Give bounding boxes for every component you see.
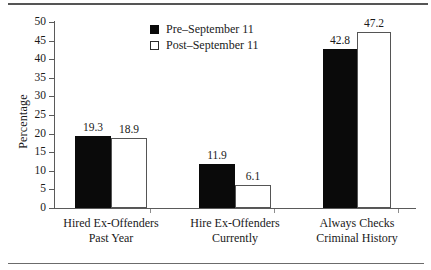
x-axis-category-label-line: Always Checks <box>282 216 431 231</box>
legend-swatch-filled-square-icon <box>150 25 159 34</box>
bar <box>111 138 147 208</box>
legend-label-post: Post–September 11 <box>166 39 259 52</box>
legend-label-pre: Pre–September 11 <box>166 23 254 36</box>
y-axis-tick-label: 45 <box>4 35 46 47</box>
y-axis-tick-label: 25 <box>4 109 46 121</box>
y-axis-tick-mark <box>49 171 54 172</box>
y-axis-tick-label: 40 <box>4 53 46 65</box>
bar <box>235 185 271 208</box>
y-axis-tick-mark <box>49 96 54 97</box>
y-axis-tick-label: 50 <box>4 16 46 28</box>
x-axis-tick-mark <box>274 209 275 213</box>
y-axis-tick-mark <box>49 22 54 23</box>
y-axis-tick-mark <box>49 115 54 116</box>
legend-swatch-open-square-icon <box>150 41 159 50</box>
y-axis-tick-mark <box>49 41 54 42</box>
x-axis-tick-mark <box>150 209 151 213</box>
chart-legend: Pre–September 11 Post–September 11 <box>150 22 259 54</box>
y-axis-tick-label: 20 <box>4 128 46 140</box>
bar <box>323 49 357 208</box>
legend-item-post: Post–September 11 <box>150 38 259 52</box>
bar-value-label: 18.9 <box>103 123 155 135</box>
y-axis-line <box>54 21 55 209</box>
figure-container: Percentage 50454035302520151050 19.318.9… <box>0 0 431 270</box>
bar-value-label: 11.9 <box>191 149 243 161</box>
y-axis-tick-mark <box>49 152 54 153</box>
y-axis-tick-label: 5 <box>4 183 46 195</box>
y-axis-tick-label: 15 <box>4 146 46 158</box>
y-axis-tick-label: 10 <box>4 165 46 177</box>
bar-chart-plot-area: Percentage 50454035302520151050 19.318.9… <box>0 0 431 270</box>
legend-item-pre: Pre–September 11 <box>150 22 259 36</box>
y-axis-tick-mark <box>49 134 54 135</box>
x-axis-category-label-line: Criminal History <box>282 231 431 246</box>
x-axis-tick-mark <box>398 209 399 213</box>
x-axis-line <box>54 208 416 209</box>
y-axis-tick-mark <box>49 189 54 190</box>
bar-value-label: 6.1 <box>227 170 279 182</box>
bar <box>357 32 391 208</box>
y-axis-tick-label: 30 <box>4 90 46 102</box>
y-axis-tick-label: 0 <box>4 202 46 214</box>
bar-value-label: 47.2 <box>349 17 399 29</box>
y-axis-tick-mark <box>49 208 54 209</box>
y-axis-tick-mark <box>49 78 54 79</box>
y-axis-tick-label: 35 <box>4 72 46 84</box>
bar <box>75 136 111 208</box>
y-axis-tick-mark <box>49 59 54 60</box>
x-axis-category-label: Always ChecksCriminal History <box>282 216 431 245</box>
